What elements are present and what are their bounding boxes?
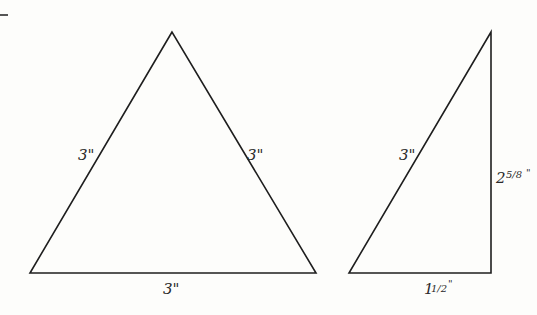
equilateral-left-label: 3" xyxy=(78,146,94,164)
svg-text:": " xyxy=(526,167,531,178)
triangles-diagram: 3" 3" 3" 3" 2 5/8 " 1 1/2 " xyxy=(0,0,537,315)
svg-text:": " xyxy=(448,278,453,289)
svg-text:1/2: 1/2 xyxy=(431,283,447,294)
equilateral-triangle xyxy=(30,32,316,273)
right-base-label: 1 1/2 " xyxy=(424,278,453,298)
right-hypotenuse-label: 3" xyxy=(399,146,415,164)
svg-text:2: 2 xyxy=(495,169,506,187)
equilateral-base-label: 3" xyxy=(163,280,179,298)
right-height-label: 2 5/8 " xyxy=(495,167,531,187)
equilateral-right-label: 3" xyxy=(247,146,263,164)
right-triangle xyxy=(349,32,491,273)
svg-text:5/8: 5/8 xyxy=(506,169,522,180)
